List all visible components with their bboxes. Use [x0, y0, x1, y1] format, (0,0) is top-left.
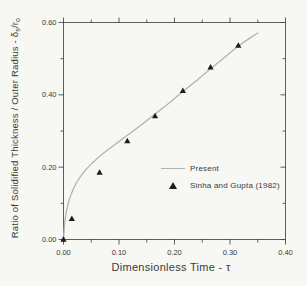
plot-svg: 0.000.100.200.300.400.000.200.400.60	[0, 0, 307, 286]
legend-entry-present: Present	[160, 160, 280, 177]
legend-label-present: Present	[190, 164, 219, 173]
y-tick-label: 0.00	[42, 235, 57, 244]
legend-line-swatch	[160, 163, 186, 175]
filled-triangle-icon	[169, 182, 177, 189]
legend-label-sinha-gupta: Sinha and Gupta (1982)	[190, 181, 280, 190]
x-tick-label: 0.30	[223, 248, 238, 257]
plot-frame	[64, 23, 286, 240]
legend-marker-swatch	[160, 180, 186, 192]
data-point-triangle	[60, 236, 66, 242]
r-subscript: o	[14, 18, 21, 22]
legend: Present Sinha and Gupta (1982)	[160, 160, 280, 194]
x-tick-label: 0.40	[278, 248, 293, 257]
data-point-triangle	[96, 169, 102, 175]
data-point-triangle	[69, 215, 75, 221]
x-tick-label: 0.00	[56, 248, 71, 257]
legend-entry-sinha-gupta: Sinha and Gupta (1982)	[160, 177, 280, 194]
x-tick-label: 0.10	[112, 248, 127, 257]
line-sample-icon	[161, 168, 185, 169]
delta-subscript: s	[14, 28, 21, 32]
y-tick-label: 0.60	[42, 18, 57, 27]
y-axis-title-text: Ratio of Solidified Thickness / Outer Ra…	[9, 37, 20, 238]
y-tick-label: 0.40	[42, 90, 57, 99]
data-point-triangle	[124, 138, 130, 144]
y-tick-label: 0.20	[42, 163, 57, 172]
solidification-chart-figure: 0.000.100.200.300.400.000.200.400.60 Rat…	[0, 0, 307, 286]
x-axis-title: Dimensionless Time - τ	[111, 261, 230, 273]
slash-r-symbol: /r	[9, 22, 20, 28]
x-tick-label: 0.20	[167, 248, 182, 257]
delta-symbol: δ	[9, 32, 20, 38]
y-axis-title: Ratio of Solidified Thickness / Outer Ra…	[9, 18, 22, 238]
present-curve	[64, 33, 258, 240]
